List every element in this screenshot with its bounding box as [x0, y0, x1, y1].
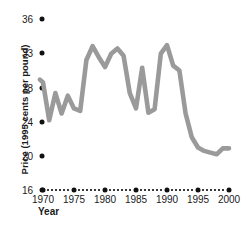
price-series-line: [40, 45, 229, 154]
plot-area: [0, 0, 246, 230]
price-line-chart: Price (1995 cents per pound) Year 363328…: [0, 0, 246, 230]
